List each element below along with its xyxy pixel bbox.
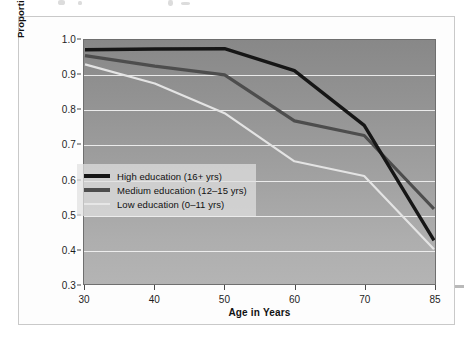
x-tick-mark bbox=[365, 285, 366, 290]
y-tick-label: 0.9 bbox=[62, 69, 76, 80]
y-tick-label: 1.0 bbox=[62, 34, 76, 45]
y-axis-title: Proportion with No Health Limitations in… bbox=[15, 0, 39, 57]
y-tick-mark bbox=[77, 144, 81, 145]
x-tick-label: 60 bbox=[289, 294, 300, 305]
x-tick-label: 85 bbox=[429, 294, 440, 305]
x-tick-label: 30 bbox=[78, 294, 89, 305]
x-tick-mark bbox=[295, 285, 296, 290]
x-tick-mark bbox=[154, 285, 155, 290]
y-tick-mark bbox=[77, 109, 81, 110]
y-axis-title-line1: Proportion with No Health Limitations bbox=[15, 0, 26, 38]
legend-label: High education (16+ yrs) bbox=[117, 171, 222, 182]
legend-swatch bbox=[84, 174, 110, 178]
y-tick-mark bbox=[77, 74, 81, 75]
legend-label: Medium education (12–15 yrs) bbox=[117, 185, 247, 196]
y-tick-label: 0.6 bbox=[62, 174, 76, 185]
figure-panel: Proportion with No Health Limitations in… bbox=[18, 16, 455, 325]
y-tick-label: 0.7 bbox=[62, 139, 76, 150]
series-lines bbox=[84, 40, 435, 284]
x-tick-mark bbox=[224, 285, 225, 290]
legend-item: Low education (0–11 yrs) bbox=[84, 197, 247, 211]
y-tick-label: 0.3 bbox=[62, 280, 76, 291]
y-tick-label: 0.8 bbox=[62, 104, 76, 115]
x-tick-label: 40 bbox=[149, 294, 160, 305]
chart-legend: High education (16+ yrs)Medium education… bbox=[77, 164, 256, 216]
x-tick-label: 70 bbox=[359, 294, 370, 305]
legend-swatch bbox=[84, 188, 110, 192]
y-tick-label: 0.4 bbox=[62, 244, 76, 255]
legend-label: Low education (0–11 yrs) bbox=[117, 199, 224, 210]
y-tick-mark bbox=[77, 249, 81, 250]
plot-area bbox=[83, 39, 436, 285]
legend-swatch bbox=[84, 203, 110, 205]
legend-item: High education (16+ yrs) bbox=[84, 169, 247, 183]
y-axis-ticks: 1.00.90.80.70.60.50.40.3 bbox=[43, 39, 81, 285]
x-tick-mark bbox=[435, 285, 436, 290]
legend-item: Medium education (12–15 yrs) bbox=[84, 183, 247, 197]
x-axis-title: Age in Years bbox=[83, 307, 436, 318]
x-tick-mark bbox=[84, 285, 85, 290]
y-tick-mark bbox=[77, 39, 81, 40]
y-tick-label: 0.5 bbox=[62, 209, 76, 220]
y-tick-mark bbox=[77, 285, 81, 286]
scan-artifact-top bbox=[50, 0, 250, 6]
x-tick-label: 50 bbox=[219, 294, 230, 305]
